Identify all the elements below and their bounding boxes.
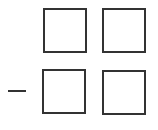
subtrahend-tens-box[interactable] (42, 69, 86, 114)
subtrahend-ones-box[interactable] (102, 70, 146, 115)
minuend-tens-box[interactable] (43, 8, 87, 53)
minuend-ones-box[interactable] (102, 8, 146, 53)
minus-sign-icon (8, 90, 26, 92)
